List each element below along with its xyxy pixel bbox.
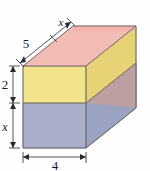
prism-diagram: 5 x 2 x 4 (0, 0, 150, 171)
top-face-back-band (73, 26, 136, 31)
depth-main-label: 5 (23, 36, 30, 51)
side-lower-blue-region (86, 103, 136, 148)
width-bottom-label: 4 (52, 158, 59, 171)
front-upper-face (23, 66, 86, 103)
front-lower-face (23, 103, 86, 148)
depth-extra-label: x (58, 16, 64, 28)
height-dimension-group (9, 66, 20, 148)
figure-container: 5 x 2 x 4 (0, 0, 150, 171)
height-upper-label: 2 (2, 77, 9, 92)
height-lower-label: x (1, 120, 8, 134)
